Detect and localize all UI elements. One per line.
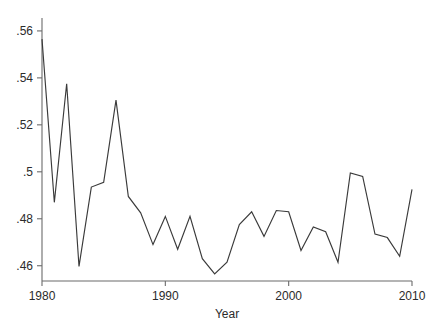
axis-group — [37, 18, 412, 286]
x-axis-tick-label: 2010 — [399, 290, 426, 302]
x-axis-tick-label: 1990 — [152, 290, 179, 302]
x-axis-ticks — [42, 281, 412, 286]
y-axis-tick-label: .52 — [16, 119, 33, 131]
line-chart: .46.48.5.52.54.56 1980199020002010 Year — [0, 0, 427, 327]
y-axis-tick-label: .54 — [16, 72, 33, 84]
plot-area — [0, 0, 427, 327]
x-axis-tick-label: 1980 — [29, 290, 56, 302]
x-axis-tick-label: 2000 — [275, 290, 302, 302]
x-axis-title: Year — [215, 307, 239, 321]
y-axis-tick-label: .48 — [16, 213, 33, 225]
y-axis-tick-label: .56 — [16, 25, 33, 37]
y-axis-ticks — [37, 31, 42, 266]
y-axis-tick-label: .46 — [16, 260, 33, 272]
y-axis-tick-label: .5 — [23, 166, 33, 178]
data-line-series — [42, 39, 412, 274]
